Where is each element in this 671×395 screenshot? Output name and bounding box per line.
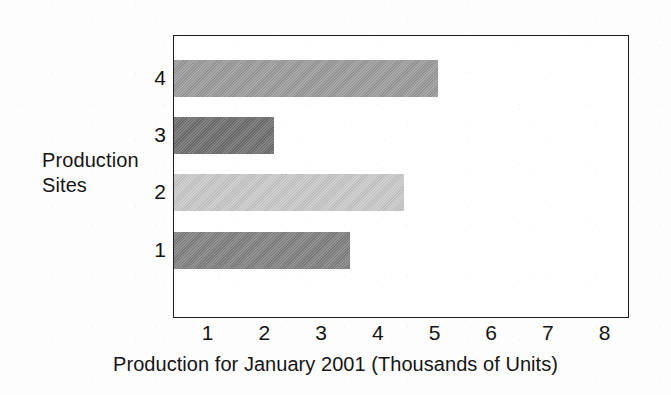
x-tick-label-1: 1 <box>193 322 223 344</box>
bar-site-1 <box>174 232 350 269</box>
x-tick-label-7: 7 <box>533 322 563 344</box>
y-tick-label-3: 3 <box>142 124 166 145</box>
bar-site-3 <box>174 117 274 154</box>
x-axis-title: Production for January 2001 (Thousands o… <box>0 352 671 376</box>
y-tick-label-group: 4 3 2 1 <box>140 35 166 318</box>
x-tick-label-2: 2 <box>249 322 279 344</box>
x-tick-label-5: 5 <box>420 322 450 344</box>
x-tick-label-3: 3 <box>306 322 336 344</box>
y-tick-label-4: 4 <box>142 67 166 88</box>
y-tick-label-2: 2 <box>142 181 166 202</box>
x-tick-label-group: 1 2 3 4 5 6 7 8 <box>0 322 671 346</box>
bar-site-4 <box>174 60 438 97</box>
x-tick-label-4: 4 <box>363 322 393 344</box>
bar-chart-figure: Production Sites 4 3 2 1 1 2 3 4 5 6 7 8… <box>0 0 671 395</box>
x-tick-label-6: 6 <box>476 322 506 344</box>
bar-site-2 <box>174 174 404 211</box>
x-tick-label-8: 8 <box>590 322 620 344</box>
plot-area <box>173 35 629 318</box>
y-tick-label-1: 1 <box>142 239 166 260</box>
